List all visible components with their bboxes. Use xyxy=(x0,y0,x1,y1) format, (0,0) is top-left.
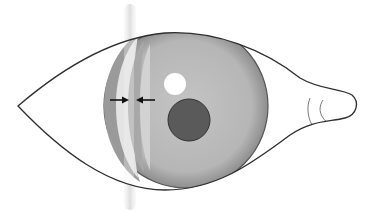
eye-diagram-svg xyxy=(0,0,369,212)
pupil xyxy=(168,99,210,141)
corneal-highlight xyxy=(164,73,186,95)
eye-diagram xyxy=(0,0,369,212)
